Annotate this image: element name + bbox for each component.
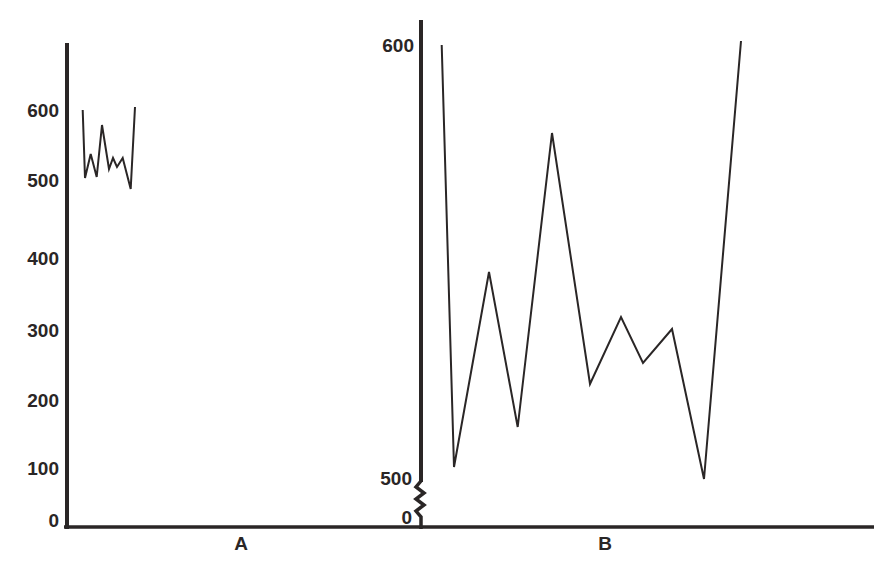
tick-label: 400 [27, 248, 59, 269]
tick-label: 0 [401, 507, 412, 528]
tick-label: 300 [27, 320, 59, 341]
chart-canvas: 600 500 400 300 200 100 0 600 500 0 A B [0, 0, 893, 571]
tick-label: 600 [382, 35, 414, 56]
panel-label-b: B [598, 533, 612, 554]
series-b-line [442, 41, 741, 479]
tick-label: 500 [380, 468, 412, 489]
tick-label: 100 [27, 458, 59, 479]
tick-label: 200 [27, 390, 59, 411]
series-a-line [83, 107, 135, 189]
tick-label: 600 [27, 100, 59, 121]
tick-label: 0 [48, 510, 59, 531]
panel-label-a: A [234, 533, 248, 554]
axis-break-icon [416, 481, 424, 529]
y-ticks-b: 600 500 0 [380, 35, 414, 528]
y-ticks-a: 600 500 400 300 200 100 0 [27, 100, 59, 531]
tick-label: 500 [27, 170, 59, 191]
